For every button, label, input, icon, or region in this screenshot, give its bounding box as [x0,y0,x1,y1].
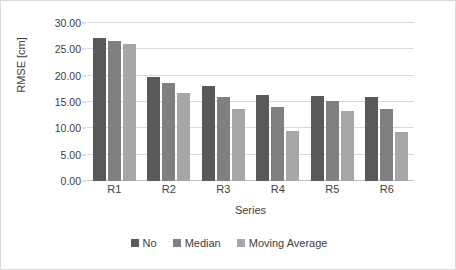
chart-legend: NoMedianMoving Average [1,237,456,249]
bar-chart: 0.005.0010.0015.0020.0025.0030.00 RMSE [… [0,0,456,270]
bar[interactable] [108,41,121,181]
bar-group-R5 [311,23,354,181]
x-tick-label-R4: R4 [271,183,285,195]
bar[interactable] [395,132,408,181]
y-tick-label: 5.00 [33,149,81,161]
bar[interactable] [256,95,269,181]
y-tick-mark [82,23,86,24]
y-axis-ticks: 0.005.0010.0015.0020.0025.0030.00 [29,23,81,181]
legend-label: Median [185,237,221,249]
bar-group-R4 [256,23,299,181]
bar[interactable] [380,109,393,181]
x-axis-ticks: R1R2R3R4R5R6 [87,183,414,201]
x-tick-label-R2: R2 [162,183,176,195]
y-tick-mark [82,102,86,103]
bar[interactable] [365,97,378,181]
bar-group-R2 [147,23,190,181]
y-tick-mark [82,75,86,76]
y-tick-label: 20.00 [33,70,81,82]
bar-group-R6 [365,23,408,181]
x-axis-title: Series [87,204,414,216]
bar[interactable] [177,93,190,181]
y-tick-label: 0.00 [33,175,81,187]
y-tick-label: 30.00 [33,17,81,29]
legend-label: No [143,237,157,249]
bar[interactable] [286,131,299,181]
bar[interactable] [326,101,339,181]
bar[interactable] [341,111,354,181]
bar[interactable] [202,86,215,181]
y-axis-title: RMSE [cm] [15,10,27,120]
legend-swatch-icon [237,239,245,247]
bar[interactable] [311,96,324,181]
x-tick-label-R6: R6 [380,183,394,195]
y-tick-mark [82,128,86,129]
legend-swatch-icon [173,239,181,247]
legend-item[interactable]: No [131,237,157,249]
x-tick-label-R3: R3 [216,183,230,195]
x-tick-label-R5: R5 [325,183,339,195]
bar-group-R1 [93,23,136,181]
bar-group-R3 [202,23,245,181]
bar[interactable] [93,38,106,181]
legend-item[interactable]: Median [173,237,221,249]
bar[interactable] [271,107,284,181]
bar[interactable] [147,77,160,181]
bar[interactable] [162,83,175,181]
y-tick-label: 25.00 [33,43,81,55]
y-tick-label: 15.00 [33,96,81,108]
y-tick-label: 10.00 [33,122,81,134]
legend-label: Moving Average [249,237,328,249]
bar[interactable] [232,109,245,181]
bar[interactable] [217,97,230,181]
legend-swatch-icon [131,239,139,247]
y-tick-mark [82,154,86,155]
y-tick-mark [82,181,86,182]
bars-layer [87,23,414,181]
x-tick-label-R1: R1 [107,183,121,195]
y-tick-mark [82,49,86,50]
legend-item[interactable]: Moving Average [237,237,328,249]
bar[interactable] [123,44,136,181]
